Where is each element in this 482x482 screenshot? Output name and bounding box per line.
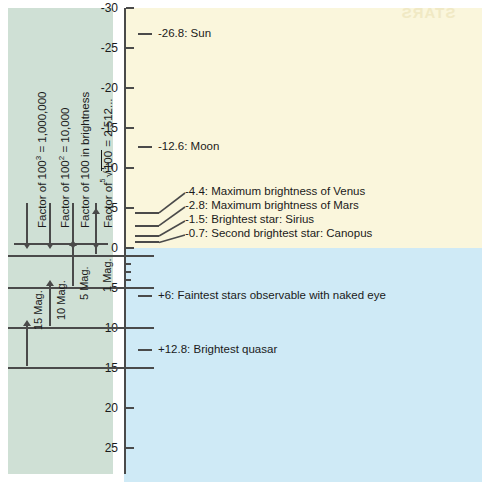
annotation-label: -12.6: Moon — [158, 141, 219, 152]
span-arrow-up-end — [26, 203, 28, 243]
annotation-label: -0.7: Second brightest star: Canopus — [185, 228, 372, 239]
axis-tick-label: -25 — [82, 43, 118, 53]
span-baseline-rule — [8, 367, 154, 369]
span-arrow-down-end — [72, 246, 74, 286]
axis-tick-major — [126, 167, 134, 169]
annotation-leader-stub — [135, 212, 159, 214]
magnitude-scale-figure: STARS -30-25-20-15-10-5051015202530 -26.… — [0, 0, 482, 482]
annotation-dash — [138, 295, 152, 297]
factor-label-text: Factor of — [102, 179, 114, 228]
annotation-dash — [138, 146, 152, 148]
factor-label: Factor of 100 in brightness — [79, 92, 91, 228]
annotation-label: -2.8: Maximum brightness of Mars — [185, 200, 359, 211]
axis-tick-minor — [126, 263, 131, 265]
factor-label: Factor of 1002 = 10,000 — [56, 108, 71, 229]
annotation-label: -1.5: Brightest star: Sirius — [185, 214, 314, 225]
annotation-label: +12.8: Brightest quasar — [158, 344, 277, 355]
axis-tick-major — [126, 87, 134, 89]
span-label: 1 Mag. — [101, 258, 113, 292]
annotation-dash — [138, 349, 152, 351]
magnitude-axis-line — [124, 8, 126, 474]
span-label: 15 Mag. — [32, 290, 44, 330]
axis-tick-major — [126, 7, 134, 9]
annotation-label: +6: Faintest stars observable with naked… — [158, 290, 386, 301]
span-arrow-down-end — [26, 326, 28, 366]
annotation-leader-stub — [135, 225, 159, 227]
axis-tick-minor — [126, 279, 131, 281]
annotation-label: -4.4: Maximum brightness of Venus — [185, 186, 365, 197]
span-arrow-up-end — [72, 203, 74, 243]
annotation-leader-stub — [135, 235, 159, 237]
annotation-leader-stub — [135, 241, 159, 243]
factor-label: Factor of 5√100 = 2.512... — [102, 98, 114, 228]
axis-tick-major — [126, 407, 134, 409]
span-label: 10 Mag. — [55, 280, 67, 320]
axis-tick-major — [126, 127, 134, 129]
axis-tick-major — [126, 47, 134, 49]
span-baseline-rule — [8, 255, 154, 257]
axis-tick-major — [126, 247, 134, 249]
axis-tick-labels: -30-25-20-15-10-5051015202530 — [78, 0, 118, 482]
span-arrow-down-end — [49, 286, 51, 326]
axis-tick-minor — [126, 271, 131, 273]
span-arrow-up-end — [49, 203, 51, 243]
factor-label: Factor of 1003 = 1,000,000 — [33, 92, 48, 229]
span-label: 5 Mag. — [78, 266, 90, 300]
faint-objects-region — [124, 248, 482, 482]
bright-objects-region — [124, 8, 482, 248]
axis-tick-label: 25 — [82, 443, 118, 453]
annotation-label: -26.8: Sun — [158, 28, 211, 39]
axis-tick-major — [126, 207, 134, 209]
axis-tick-major — [126, 447, 134, 449]
span-arrow-down-end — [95, 214, 97, 254]
annotation-dash — [138, 33, 152, 35]
axis-tick-label: 20 — [82, 403, 118, 413]
span-baseline-rule — [8, 327, 154, 329]
axis-tick-label: -30 — [82, 3, 118, 13]
